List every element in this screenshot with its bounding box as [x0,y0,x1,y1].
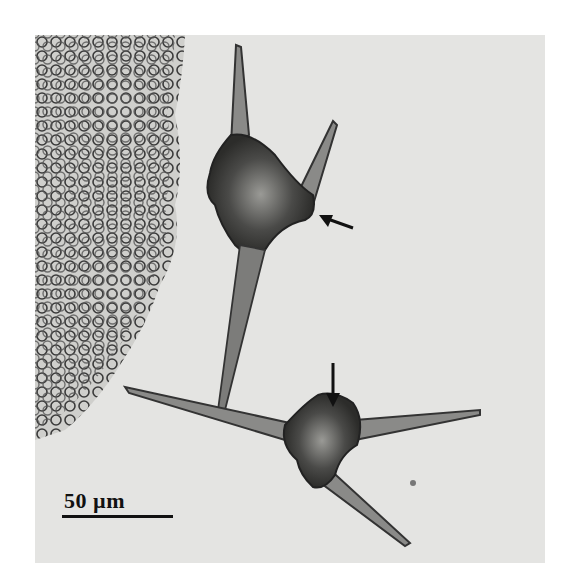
arrow-left-icon [319,215,353,228]
micrograph [35,35,545,563]
scale-bar-label: 50 µm [64,488,125,514]
scale-bar [62,515,173,518]
cell-mass [35,35,185,440]
upper-cell [207,45,337,410]
debris-speck [410,480,416,486]
lower-cell [125,387,480,546]
micrograph-svg [35,35,545,563]
